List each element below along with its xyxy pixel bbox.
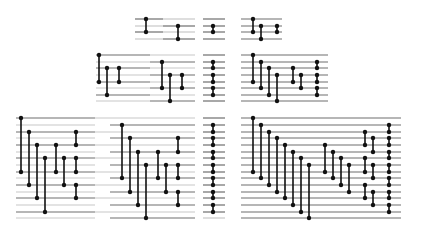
comparator-node [275, 30, 279, 34]
comparator-node [363, 143, 367, 147]
comparator-node [315, 86, 319, 90]
comparator-node [259, 24, 263, 28]
comparator-node [117, 66, 121, 70]
comparator-node [144, 216, 148, 220]
comparator-node [176, 190, 180, 194]
comparator-node [299, 156, 303, 160]
comparator-node [259, 37, 263, 41]
comparator-node [156, 176, 160, 180]
comparator-node [62, 156, 66, 160]
comparator-node [35, 196, 39, 200]
comparator-node [267, 183, 271, 187]
comparator-node [315, 93, 319, 97]
comparator-node [211, 136, 215, 140]
comparator-node [275, 99, 279, 103]
comparator-node [74, 143, 78, 147]
comparator-node [176, 163, 180, 167]
comparator-node [144, 163, 148, 167]
comparator-node [259, 123, 263, 127]
comparator-node [160, 86, 164, 90]
comparator-node [371, 176, 375, 180]
comparator-node [144, 17, 148, 21]
comparator-node [387, 150, 391, 154]
comparator-node [168, 73, 172, 77]
comparator-node [211, 150, 215, 154]
comparator-node [315, 66, 319, 70]
comparator-node [54, 143, 58, 147]
comparator-node [331, 150, 335, 154]
comparator-node [27, 183, 31, 187]
comparator-node [120, 176, 124, 180]
comparator-node [211, 196, 215, 200]
comparator-node [211, 60, 215, 64]
comparator-node [176, 37, 180, 41]
comparator-node [371, 190, 375, 194]
comparator-node [74, 170, 78, 174]
comparator-node [307, 216, 311, 220]
comparator-node [211, 163, 215, 167]
comparator-node [251, 116, 255, 120]
comparator-node [211, 176, 215, 180]
comparator-node [299, 73, 303, 77]
comparator-node [323, 143, 327, 147]
comparator-node [347, 163, 351, 167]
comparator-node [363, 196, 367, 200]
comparator-node [267, 93, 271, 97]
comparator-node [97, 80, 101, 84]
comparator-node [275, 73, 279, 77]
comparator-node [128, 136, 132, 140]
comparator-node [27, 130, 31, 134]
comparator-node [176, 24, 180, 28]
comparator-node [307, 163, 311, 167]
comparator-node [117, 80, 121, 84]
comparator-node [211, 86, 215, 90]
comparator-node [251, 30, 255, 34]
comparator-node [291, 203, 295, 207]
comparator-node [371, 163, 375, 167]
comparator-node [168, 99, 172, 103]
comparator-node [339, 156, 343, 160]
comparator-node [387, 163, 391, 167]
comparator-node [180, 73, 184, 77]
comparator-node [211, 66, 215, 70]
comparator-node [120, 123, 124, 127]
comparator-node [176, 176, 180, 180]
comparator-node [74, 183, 78, 187]
comparator-node [136, 203, 140, 207]
comparator-node [251, 80, 255, 84]
comparator-node [387, 170, 391, 174]
comparator-node [105, 93, 109, 97]
comparator-node [105, 66, 109, 70]
comparator-node [211, 203, 215, 207]
comparator-node [19, 170, 23, 174]
comparator-node [275, 136, 279, 140]
comparator-node [387, 156, 391, 160]
comparator-node [164, 190, 168, 194]
comparator-node [363, 156, 367, 160]
comparator-node [387, 183, 391, 187]
comparator-node [371, 203, 375, 207]
comparator-node [176, 203, 180, 207]
comparator-node [371, 150, 375, 154]
comparator-node [387, 190, 391, 194]
comparator-node [176, 150, 180, 154]
comparator-node [176, 136, 180, 140]
comparator-node [156, 150, 160, 154]
comparator-node [387, 203, 391, 207]
comparator-node [19, 116, 23, 120]
comparator-node [136, 150, 140, 154]
comparator-node [323, 170, 327, 174]
comparator-node [251, 17, 255, 21]
comparator-node [259, 86, 263, 90]
comparator-node [275, 190, 279, 194]
comparator-node [315, 60, 319, 64]
comparator-node [291, 80, 295, 84]
comparator-node [347, 190, 351, 194]
comparator-node [259, 60, 263, 64]
comparator-node [251, 53, 255, 57]
comparator-node [74, 156, 78, 160]
comparator-node [97, 53, 101, 57]
comparator-node [267, 130, 271, 134]
comparator-node [387, 143, 391, 147]
comparator-node [180, 86, 184, 90]
